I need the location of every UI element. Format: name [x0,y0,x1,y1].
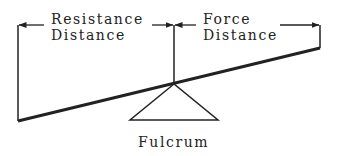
force-label-line1: Force [201,12,253,26]
force-label-line2: Distance [201,28,280,42]
resistance-label-line2: Distance [49,28,128,42]
fulcrum-label: Fulcrum [136,135,211,149]
resistance-label-line1: Resistance [49,12,146,26]
lever-diagram: Resistance Distance Force Distance Fulcr… [0,0,340,156]
lever-beam [18,48,320,121]
